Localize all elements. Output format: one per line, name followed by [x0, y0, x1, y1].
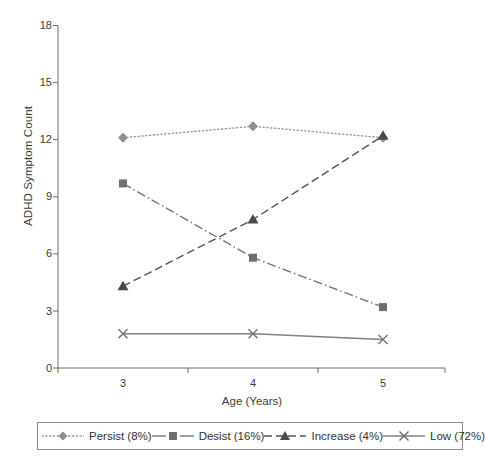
desist-point-age5 — [379, 303, 387, 311]
adhd-symptom-count-line-chart: ADHD Symptom Count 18 15 12 9 6 3 0 3 4 … — [0, 0, 485, 470]
diamond-icon — [42, 430, 84, 442]
series-increase — [118, 130, 389, 290]
increase-point-age3 — [118, 281, 129, 291]
triangle-icon — [264, 430, 306, 442]
plot-area — [0, 0, 485, 470]
square-icon — [152, 430, 194, 442]
persist-point-age3 — [118, 133, 128, 143]
legend-label-persist: Persist (8%) — [89, 430, 152, 442]
legend-label-desist: Desist (16%) — [199, 430, 265, 442]
legend-label-increase: Increase (4%) — [311, 430, 383, 442]
x-axis-ticks — [58, 368, 445, 373]
legend-item-low: Low (72%) — [383, 430, 485, 442]
desist-point-age3 — [119, 179, 127, 187]
increase-point-age5 — [378, 130, 389, 140]
legend-item-increase: Increase (4%) — [264, 430, 383, 442]
desist-point-age4 — [249, 254, 257, 262]
legend-item-persist: Persist (8%) — [42, 430, 152, 442]
chart-legend: Persist (8%) Desist (16%) Increase (4%) — [37, 422, 463, 450]
legend-label-low: Low (72%) — [430, 430, 485, 442]
persist-point-age4 — [248, 121, 258, 131]
series-desist — [119, 179, 387, 311]
increase-point-age4 — [248, 214, 259, 224]
series-persist — [118, 121, 388, 142]
y-axis-ticks — [53, 26, 58, 369]
increase-line — [123, 136, 383, 286]
x-marker-icon — [383, 430, 425, 442]
series-low — [119, 329, 388, 344]
desist-line — [123, 183, 383, 307]
legend-item-desist: Desist (16%) — [152, 430, 265, 442]
